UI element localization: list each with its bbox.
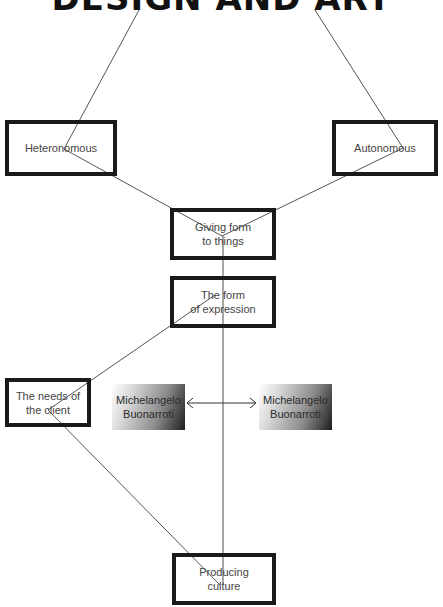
node-producing-culture: Producing culture (172, 553, 276, 605)
node-michelangelo-left: Michelangelo Buonarroti (112, 384, 185, 430)
node-giving-form: Giving form to things (170, 208, 276, 260)
node-needs-of-client: The needs of the client (5, 378, 91, 427)
node-heteronomous: Heteronomous (5, 120, 117, 176)
node-michelangelo-right: Michelangelo Buonarroti (259, 384, 332, 430)
node-autonomous: Autonomous (332, 120, 438, 176)
node-form-of-expression: The form of expression (170, 276, 276, 328)
